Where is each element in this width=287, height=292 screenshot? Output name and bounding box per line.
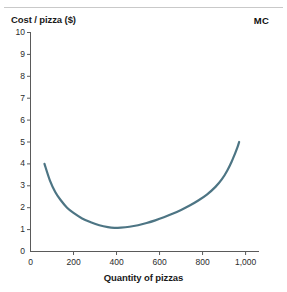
axis-lines: [30, 32, 259, 252]
marginal-cost-curve: [44, 142, 239, 228]
chart-figure: Cost / pizza ($) MC Quantity of pizzas 0…: [0, 0, 287, 292]
y-tick-marks: [27, 33, 31, 230]
plot-area: [0, 0, 287, 292]
x-tick-marks: [74, 252, 246, 256]
